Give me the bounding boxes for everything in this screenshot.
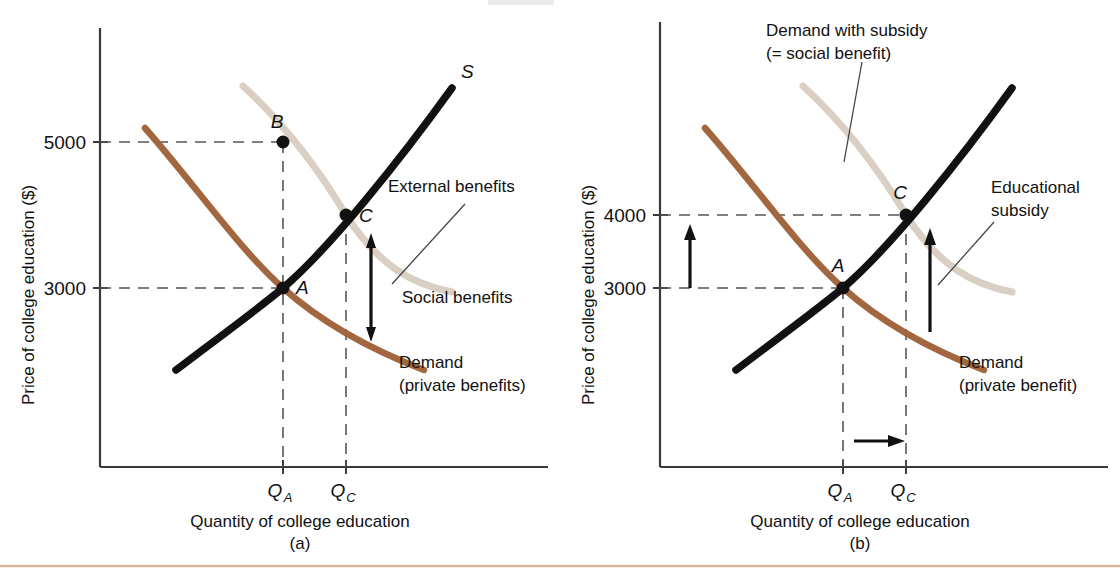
panel-b-xtick-qa-letter: Q (828, 480, 843, 501)
panel-a-external-benefits-label: External benefits (388, 177, 515, 196)
panel-b-point-c-marker (900, 209, 913, 222)
panel-a-demand-label-line1: Demand (399, 353, 463, 372)
panel-b-xtick-qc-sub: C (906, 490, 916, 505)
panel-a-ytick-label-3000: 3000 (44, 278, 86, 299)
panel-b-educational-subsidy-label-line1: Educational (991, 178, 1080, 197)
panel-b-ytick-label-4000: 4000 (604, 205, 646, 226)
panel-a-point-b-label: B (271, 111, 284, 132)
panel-a-social-benefits-label: Social benefits (402, 288, 513, 307)
panel-b-xtick-qa-sub: A (843, 490, 853, 505)
panel-a-x-axis-title: Quantity of college education (190, 512, 409, 531)
panel-b-xtick-qc-letter: Q (891, 480, 906, 501)
panel-b-x-axis-title: Quantity of college education (750, 512, 969, 531)
panel-a-point-c-label: C (359, 205, 373, 226)
panel-b-demand-label-line1: Demand (959, 353, 1023, 372)
panel-a-supply-label: S (461, 61, 474, 82)
panel-b-point-a-label: A (831, 255, 845, 276)
panel-a-ytick-label-5000: 5000 (44, 132, 86, 153)
panel-a-xtick-qa-letter: Q (268, 480, 283, 501)
panel-b-demand-with-subsidy-label-line2: (= social benefit) (766, 44, 891, 63)
panel-b-point-a-marker (837, 282, 850, 295)
panel-a-xtick-qa-sub: A (283, 490, 293, 505)
panel-a-xtick-qc-letter: Q (331, 480, 346, 501)
economics-figure-svg: Price of college education ($) 5000 3000… (0, 0, 1120, 575)
panel-b-demand-label-line2: (private benefit) (959, 376, 1077, 395)
panel-a-letter: (a) (290, 534, 311, 553)
figure-root: Price of college education ($) 5000 3000… (0, 0, 1120, 575)
panel-b-point-c-label: C (893, 182, 907, 203)
panel-a-y-axis-title: Price of college education ($) (19, 185, 38, 405)
panel-b-educational-subsidy-label-line2: subsidy (991, 201, 1049, 220)
scan-artifact (488, 0, 554, 5)
panel-b-letter: (b) (850, 534, 871, 553)
panel-a-xtick-qc-sub: C (346, 490, 356, 505)
panel-b-demand-with-subsidy-label-line1: Demand with subsidy (766, 21, 928, 40)
panel-a-point-a-marker (277, 282, 290, 295)
panel-b-y-axis-title: Price of college education ($) (579, 185, 598, 405)
panel-a-point-b-marker (277, 136, 290, 149)
panel-a-demand-label-line2: (private benefits) (399, 376, 526, 395)
panel-a-point-a-label: A (295, 277, 309, 298)
panel-b-ytick-label-3000: 3000 (604, 278, 646, 299)
panel-a-point-c-marker (340, 209, 353, 222)
